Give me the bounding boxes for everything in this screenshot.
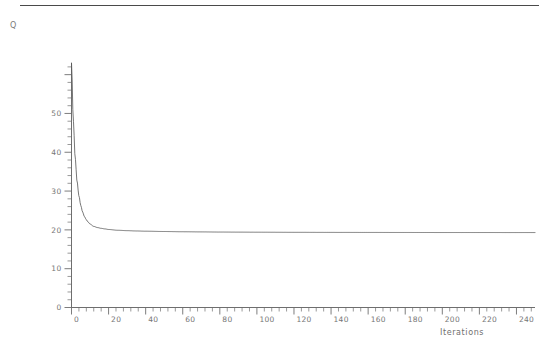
chart-figure: Q 01020304050 02040608010012014016018020… [0,0,539,352]
x-axis-ticks [72,308,532,315]
y-tick-label: 20 [51,226,61,235]
x-tick-label: 220 [482,315,497,324]
x-tick-label: 140 [334,315,349,324]
x-tick-label: 160 [371,315,386,324]
x-axis-label: Iterations [440,329,484,337]
x-axis-tick-labels: 020406080100120140160180200220240 [74,315,534,324]
y-tick-label: 30 [51,187,61,196]
y-tick-label: 10 [51,264,61,273]
y-tick-label: 40 [51,148,61,157]
x-tick-label: 100 [259,315,274,324]
x-tick-label: 120 [296,315,311,324]
y-tick-label: 50 [51,109,61,118]
data-line-q [72,63,536,233]
x-tick-label: 40 [148,315,158,324]
x-tick-label: 60 [185,315,195,324]
y-axis-tick-labels: 01020304050 [51,109,61,312]
x-tick-label: 0 [74,315,79,324]
x-tick-label: 200 [445,315,460,324]
plot-area: 01020304050 0204060801001201401601802002… [0,0,539,352]
y-axis-ticks [65,67,72,308]
x-tick-label: 20 [111,315,121,324]
x-tick-label: 240 [519,315,534,324]
y-tick-label: 0 [56,303,61,312]
x-tick-label: 80 [222,315,232,324]
x-tick-label: 180 [408,315,423,324]
